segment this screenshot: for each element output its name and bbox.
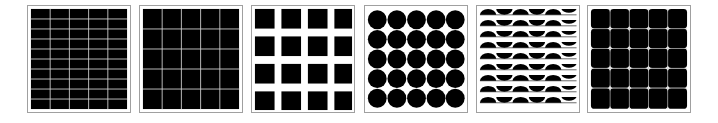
grid-coarse-pattern xyxy=(140,6,242,112)
panel-circles xyxy=(364,5,468,113)
separated-squares-pattern xyxy=(252,6,354,112)
rounded-squares-pattern xyxy=(588,6,690,112)
panel-separated-squares xyxy=(251,5,355,113)
grid-fine-pattern xyxy=(28,6,130,112)
panel-rounded-squares xyxy=(587,5,691,113)
circles-pattern xyxy=(365,6,467,112)
panel-half-discs xyxy=(476,5,580,113)
half-discs-pattern xyxy=(477,6,579,112)
panel-grid-fine xyxy=(27,5,131,113)
panel-grid-coarse xyxy=(139,5,243,113)
